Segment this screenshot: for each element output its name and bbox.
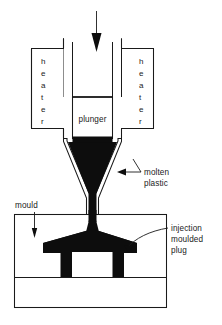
- plunger-label: plunger: [78, 115, 106, 124]
- molten-plastic-arrow-icon: [117, 159, 141, 176]
- plug-label-line3: plug: [171, 246, 187, 255]
- heater-left-letter-r: r: [41, 117, 44, 126]
- heater-block-left: [32, 39, 64, 139]
- plunger-body: plunger: [73, 97, 113, 139]
- heater-left-letter-a: a: [41, 81, 46, 90]
- force-arrow-icon: [92, 11, 102, 52]
- molten-plastic-label-line1: molten: [144, 168, 170, 177]
- heater-right-letter-t: t: [139, 93, 142, 102]
- heater-left-letter-e: e: [41, 69, 46, 78]
- plunger-shaft: [64, 39, 122, 98]
- heater-right-letter-h: h: [139, 57, 143, 66]
- heater-right-label: h e a t e r: [139, 57, 144, 126]
- plug-label-line2: moulded: [171, 235, 203, 244]
- molten-plastic-label-group: molten plastic: [117, 159, 170, 188]
- heater-block-right: [122, 39, 154, 139]
- heater-right-letter-a: a: [139, 81, 144, 90]
- heater-right-letter-r: r: [139, 117, 142, 126]
- injection-moulding-diagram: h e a t e r h e a t e r plunger: [0, 0, 222, 325]
- plug-label-line1: injection: [171, 224, 202, 233]
- heater-left-letter-h: h: [41, 57, 45, 66]
- heater-right-letter-e: e: [139, 69, 144, 78]
- mould-label: mould: [15, 201, 38, 210]
- diagram-canvas: h e a t e r h e a t e r plunger: [0, 0, 222, 325]
- molten-plastic-label-line2: plastic: [144, 179, 168, 188]
- heater-right-letter-e2: e: [139, 105, 144, 114]
- heater-left-letter-e2: e: [41, 105, 46, 114]
- molten-plastic-fill: [68, 137, 117, 216]
